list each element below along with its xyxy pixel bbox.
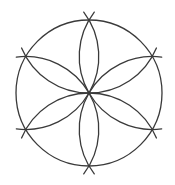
- petal-arc-1: [22, 48, 157, 93]
- petal-arc-5: [16, 57, 98, 174]
- hexafoil-diagram: [0, 0, 175, 185]
- petal-arc-4: [22, 93, 157, 138]
- petal-arc-3: [79, 57, 161, 174]
- petal-arc-2: [79, 12, 161, 129]
- petal-arc-6: [16, 12, 98, 129]
